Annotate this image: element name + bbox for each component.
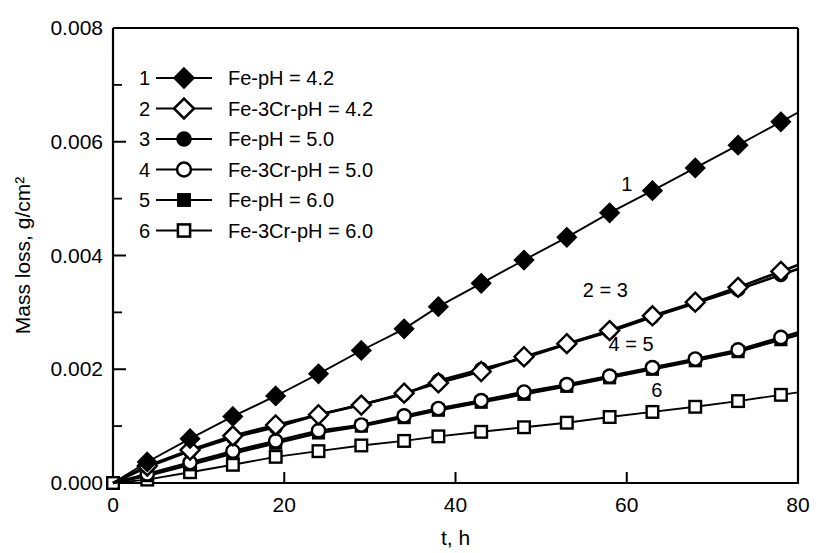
legend-label: Fe-pH = 6.0 <box>228 189 334 211</box>
marker-open-circle <box>517 385 530 398</box>
marker-open-circle <box>398 409 411 422</box>
legend-label: Fe-3Cr-pH = 5.0 <box>228 159 373 181</box>
marker-open-square <box>647 406 659 418</box>
y-tick-label: 0.000 <box>50 471 103 494</box>
marker-open-square <box>689 401 701 413</box>
x-tick-label: 20 <box>273 493 296 516</box>
legend-label: Fe-3Cr-pH = 4.2 <box>228 98 373 120</box>
marker-open-circle <box>774 331 787 344</box>
curve-annotation: 4 = 5 <box>609 333 654 355</box>
legend-index: 3 <box>139 128 150 150</box>
legend-index: 1 <box>139 67 150 89</box>
chart-background <box>0 0 829 553</box>
marker-open-square <box>270 451 282 463</box>
marker-open-circle <box>731 343 744 356</box>
marker-open-square <box>178 224 190 236</box>
legend-label: Fe-pH = 5.0 <box>228 128 334 150</box>
marker-open-circle <box>269 434 282 447</box>
marker-filled-circle <box>177 132 191 146</box>
y-tick-label: 0.004 <box>50 244 103 267</box>
marker-open-square <box>775 389 787 401</box>
marker-open-square <box>475 426 487 438</box>
curve-annotation: 6 <box>651 379 662 401</box>
marker-open-circle <box>312 424 325 437</box>
chart-root: 0204060800.0000.0020.0040.0060.008 12 = … <box>0 0 829 553</box>
marker-open-circle <box>432 402 445 415</box>
x-tick-label: 80 <box>786 493 809 516</box>
y-tick-label: 0.002 <box>50 357 103 380</box>
marker-open-square <box>518 421 530 433</box>
y-tick-label: 0.008 <box>50 16 103 39</box>
legend-index: 5 <box>139 189 150 211</box>
x-tick-label: 0 <box>107 493 119 516</box>
marker-open-square <box>561 417 573 429</box>
curve-annotation: 1 <box>621 173 632 195</box>
marker-open-square <box>604 411 616 423</box>
marker-open-square <box>313 445 325 457</box>
marker-open-circle <box>560 378 573 391</box>
marker-filled-square <box>178 194 190 206</box>
marker-open-circle <box>177 163 191 177</box>
marker-open-circle <box>355 418 368 431</box>
x-tick-label: 40 <box>444 493 467 516</box>
legend-index: 2 <box>139 98 150 120</box>
marker-open-circle <box>646 361 659 374</box>
y-tick-label: 0.006 <box>50 130 103 153</box>
marker-open-square <box>398 435 410 447</box>
x-tick-label: 60 <box>615 493 638 516</box>
y-axis-title: Mass loss, g/cm² <box>11 177 34 335</box>
marker-open-circle <box>475 394 488 407</box>
marker-open-circle <box>603 369 616 382</box>
marker-open-square <box>356 440 368 452</box>
x-axis-title: t, h <box>441 526 470 549</box>
marker-open-circle <box>689 352 702 365</box>
legend-index: 4 <box>139 159 150 181</box>
marker-open-square <box>227 459 239 471</box>
marker-open-square <box>732 395 744 407</box>
legend-index: 6 <box>139 220 150 242</box>
legend-label: Fe-pH = 4.2 <box>228 67 334 89</box>
mass-loss-vs-time-chart: 0204060800.0000.0020.0040.0060.008 12 = … <box>0 0 829 553</box>
curve-annotation: 2 = 3 <box>583 279 628 301</box>
legend-label: Fe-3Cr-pH = 6.0 <box>228 220 373 242</box>
marker-open-square <box>433 431 445 443</box>
